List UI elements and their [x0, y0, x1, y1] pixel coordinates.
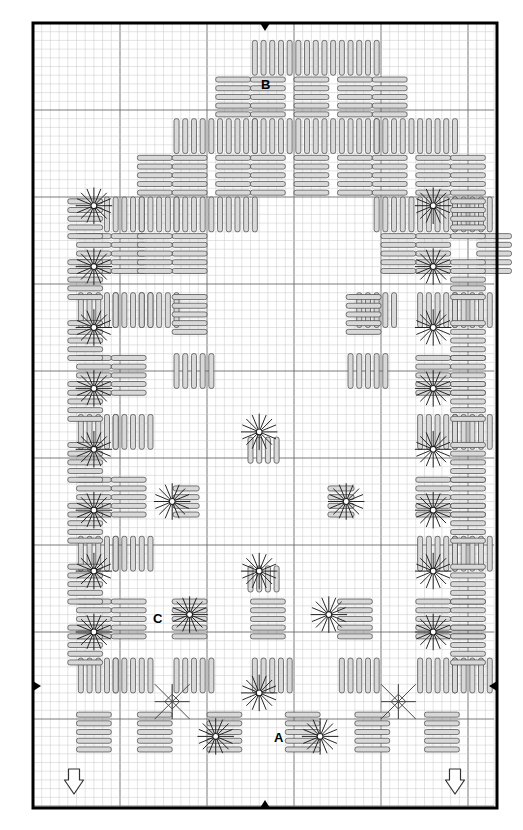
satin-stitch-bar [400, 197, 405, 232]
satin-stitch-bar [381, 251, 416, 256]
satin-stitch-bar [139, 415, 144, 450]
satin-stitch-bar [68, 573, 103, 578]
satin-stitch-bar [216, 77, 251, 82]
eyelet-star [311, 597, 347, 633]
satin-stitch-bar [451, 651, 486, 656]
satin-stitch-bar [251, 94, 286, 99]
satin-stitch-bar [418, 119, 423, 154]
satin-stitch-bar [331, 40, 336, 75]
satin-stitch-bar [68, 355, 103, 360]
satin-stitch-bar [209, 197, 214, 232]
satin-stitch-bar [374, 354, 379, 389]
satin-stitch-bar [418, 658, 423, 693]
satin-stitch-bar [68, 268, 103, 273]
eyelet-star [76, 492, 112, 528]
satin-stitch-bar [338, 181, 373, 186]
eyelet-hole [91, 203, 97, 209]
eyelet-hole [256, 429, 262, 435]
satin-stitch-bar [339, 658, 344, 693]
satin-stitch-bar [313, 119, 318, 154]
satin-stitch-bar [451, 529, 486, 534]
satin-stitch-bar [451, 190, 486, 195]
eyelet-hole [317, 733, 323, 739]
eyelet-star [76, 188, 112, 224]
satin-stitch-bar [174, 354, 179, 389]
satin-stitch-bar [416, 155, 451, 160]
satin-stitch-bar [111, 355, 146, 360]
satin-stitch-bar [183, 658, 188, 693]
satin-stitch-bar [416, 364, 451, 369]
satin-stitch-bar [425, 747, 460, 752]
satin-stitch-bar [216, 173, 251, 178]
satin-stitch-bar [338, 86, 373, 91]
satin-stitch-bar [451, 573, 486, 578]
satin-stitch-bar [157, 293, 162, 328]
satin-stitch-bar [444, 119, 449, 154]
satin-stitch-bar [451, 512, 486, 517]
satin-stitch-bar [191, 119, 196, 154]
satin-stitch-bar [451, 338, 486, 343]
satin-stitch-bar [137, 164, 172, 169]
satin-stitch-bar [207, 721, 242, 726]
satin-stitch-bar [244, 197, 249, 232]
satin-stitch-bar [294, 77, 329, 82]
satin-stitch-bar [216, 190, 251, 195]
satin-stitch-bar [77, 242, 112, 247]
satin-stitch-bar [365, 40, 370, 75]
satin-stitch-bar [365, 354, 370, 389]
satin-stitch-bar [77, 364, 112, 369]
satin-stitch-bar [172, 251, 207, 256]
satin-stitch-bar [252, 40, 257, 75]
satin-stitch-bar [68, 225, 103, 230]
satin-stitch-bar [381, 268, 416, 273]
eyelet-star [415, 249, 451, 285]
satin-stitch-bar [452, 119, 457, 154]
eyelet-star [415, 310, 451, 346]
satin-stitch-bar [451, 382, 486, 387]
woven-doves-eye-filling [155, 684, 190, 719]
satin-stitch-bar [131, 293, 136, 328]
eyelet-star [76, 371, 112, 407]
satin-stitch-bar [451, 321, 486, 326]
satin-stitch-bar [355, 721, 390, 726]
satin-stitch-bar [131, 536, 136, 571]
satin-stitch-bar [251, 190, 286, 195]
satin-stitch-bar [374, 40, 379, 75]
satin-stitch-bar [174, 658, 179, 693]
satin-stitch-bar [338, 625, 373, 630]
satin-stitch-bar [200, 119, 205, 154]
satin-stitch-bar [77, 747, 112, 752]
satin-stitch-bar [392, 293, 397, 328]
satin-stitch-bar [68, 503, 103, 508]
satin-stitch-bar [111, 373, 146, 378]
satin-stitch-bar [294, 103, 329, 108]
satin-stitch-bar [122, 536, 127, 571]
satin-stitch-bar [287, 40, 292, 75]
eyelet-star [198, 719, 234, 755]
satin-stitch-bar [77, 730, 112, 735]
satin-stitch-bar [137, 234, 172, 239]
satin-stitch-bar [137, 190, 172, 195]
satin-stitch-bar [487, 415, 492, 450]
satin-stitch-bar [68, 260, 103, 265]
satin-stitch-bar [235, 197, 240, 232]
satin-stitch-bar [216, 164, 251, 169]
eyelet-hole [430, 629, 436, 635]
satin-stitch-bar [425, 730, 460, 735]
satin-stitch-bar [172, 321, 207, 326]
satin-stitch-bar [294, 86, 329, 91]
satin-stitch-bar [200, 354, 205, 389]
satin-stitch-bar [77, 712, 112, 717]
satin-stitch-bar [174, 119, 179, 154]
satin-stitch-bar [294, 173, 329, 178]
satin-stitch-bar [296, 40, 301, 75]
satin-stitch-bar [357, 658, 362, 693]
satin-stitch-bar [137, 251, 172, 256]
hardanger-chart-svg [0, 0, 523, 830]
satin-stitch-bar [216, 112, 251, 117]
satin-stitch-bar [183, 197, 188, 232]
satin-stitch-bar [451, 181, 486, 186]
eyelet-star [76, 553, 112, 589]
satin-stitch-bar [148, 197, 153, 232]
satin-stitch-bar [218, 197, 223, 232]
